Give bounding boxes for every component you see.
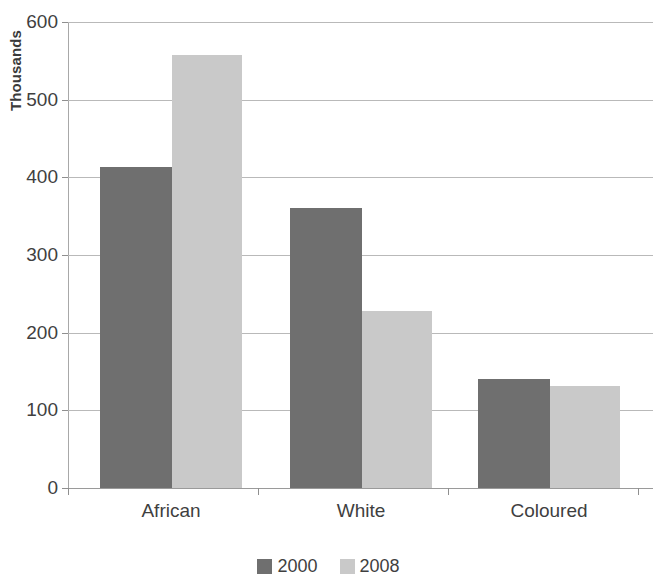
y-axis-tick-mark [62, 255, 68, 256]
bar-white-2000 [290, 208, 362, 488]
y-axis-tick-mark [62, 333, 68, 334]
y-axis-tick-mark [62, 177, 68, 178]
x-axis-tick-mark [638, 488, 639, 495]
y-axis-tick-label: 0 [47, 477, 58, 499]
x-axis-baseline [68, 488, 653, 489]
legend-swatch-2000 [257, 559, 272, 574]
legend-swatch-2008 [340, 559, 355, 574]
y-axis-tick-label: 600 [26, 11, 58, 33]
y-axis-tick-label: 300 [26, 244, 58, 266]
y-axis-tick-mark [62, 22, 68, 23]
plot-area [68, 22, 653, 488]
bar-coloured-2008 [550, 386, 620, 488]
y-axis-tick-labels: 0100200300400500600 [0, 0, 66, 585]
x-axis-tick-mark [448, 488, 449, 495]
legend-item-2008[interactable]: 2008 [340, 556, 400, 577]
x-axis-tick-mark [258, 488, 259, 495]
y-axis-tick-label: 400 [26, 166, 58, 188]
bar-chart: Thousands 0100200300400500600 AfricanWhi… [0, 0, 657, 585]
bar-african-2000 [100, 167, 172, 488]
y-axis-tick-label: 100 [26, 399, 58, 421]
bar-white-2008 [362, 311, 432, 488]
legend-item-2000[interactable]: 2000 [257, 556, 317, 577]
gridline [68, 22, 653, 23]
legend-label-2008: 2008 [360, 556, 400, 577]
y-axis-tick-label: 200 [26, 322, 58, 344]
bar-coloured-2000 [478, 379, 550, 489]
legend-label-2000: 2000 [277, 556, 317, 577]
x-axis-label-coloured: Coloured [510, 500, 587, 522]
y-axis-tick-mark [62, 100, 68, 101]
x-axis-label-african: African [141, 500, 200, 522]
chart-legend: 20002008 [0, 556, 657, 577]
x-axis-label-white: White [337, 500, 386, 522]
bar-african-2008 [172, 55, 242, 488]
y-axis-tick-mark [62, 410, 68, 411]
gridline [68, 100, 653, 101]
x-axis-tick-mark [68, 488, 69, 495]
x-axis-category-labels: AfricanWhiteColoured [68, 500, 653, 532]
y-axis-tick-label: 500 [26, 89, 58, 111]
